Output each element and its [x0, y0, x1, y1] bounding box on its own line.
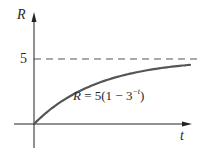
- x-axis-arrow-icon: [182, 122, 192, 127]
- x-axis-label: t: [180, 129, 184, 143]
- equation-annotation: R = 5(1 − 3−t): [73, 89, 144, 102]
- equation-suffix: ): [140, 88, 144, 103]
- chart-canvas: [0, 0, 208, 153]
- equation-body: = 5(1 − 3: [81, 88, 133, 103]
- equation-exponent: −t: [132, 87, 140, 96]
- equation-var: R: [73, 88, 81, 103]
- y-axis-label: R: [17, 8, 26, 22]
- y-tick-label-5: 5: [20, 52, 27, 66]
- y-axis-arrow-icon: [32, 12, 37, 22]
